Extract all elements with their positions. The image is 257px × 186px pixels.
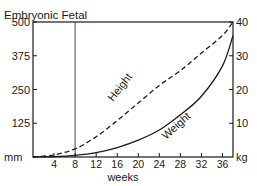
x-axis-label: weeks bbox=[106, 171, 139, 183]
height-curve bbox=[33, 22, 233, 157]
y-right-tick-label: 40 bbox=[236, 16, 248, 28]
y-left-tick-label: 125 bbox=[12, 117, 30, 129]
plot-border bbox=[33, 22, 233, 157]
height-curve-label: Height bbox=[105, 71, 134, 103]
x-tick-label: 12 bbox=[90, 158, 102, 170]
weight-curve bbox=[33, 36, 233, 158]
x-tick-label: 36 bbox=[217, 158, 229, 170]
y-left-tick-label: 250 bbox=[12, 84, 30, 96]
left-unit-label: mm bbox=[4, 151, 22, 163]
x-tick-label: 8 bbox=[72, 158, 78, 170]
x-tick-label: 4 bbox=[51, 158, 57, 170]
right-unit-label: kg bbox=[236, 151, 248, 163]
x-tick-label: 16 bbox=[111, 158, 123, 170]
x-tick-label: 20 bbox=[132, 158, 144, 170]
x-tick-label: 32 bbox=[196, 158, 208, 170]
y-left-tick-label: 375 bbox=[12, 50, 30, 62]
x-tick-label: 24 bbox=[153, 158, 165, 170]
plot-frame bbox=[33, 22, 233, 157]
growth-chart: 481216202428323612525037550010203040 Emb… bbox=[0, 0, 257, 186]
weight-curve-label: Weight bbox=[159, 110, 192, 142]
data-curves bbox=[33, 22, 233, 157]
x-tick-label: 28 bbox=[175, 158, 187, 170]
y-right-tick-label: 10 bbox=[236, 117, 248, 129]
y-right-tick-label: 30 bbox=[236, 50, 248, 62]
phase-header: Embryonic Fetal bbox=[4, 9, 87, 21]
y-right-tick-label: 20 bbox=[236, 84, 248, 96]
axis-ticks: 481216202428323612525037550010203040 bbox=[12, 16, 249, 170]
